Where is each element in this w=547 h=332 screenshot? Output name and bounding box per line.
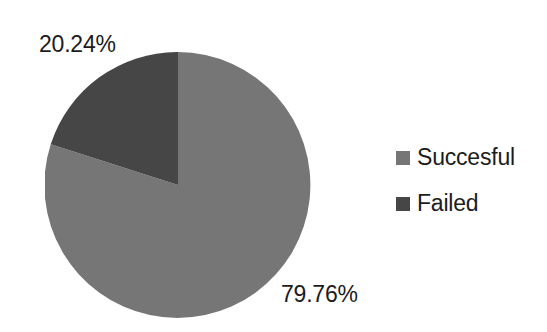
legend-swatch-failed-icon: [396, 197, 410, 211]
chart-legend: Succesful Failed: [396, 146, 515, 215]
legend-swatch-successful-icon: [396, 151, 410, 165]
pie-chart-figure: 20.24% 79.76% Succesful Failed: [0, 0, 547, 332]
pie-svg: [45, 52, 311, 318]
legend-label-failed: Failed: [417, 192, 478, 215]
pie-chart-graphic: [45, 52, 311, 318]
pie-label-successful-percent: 79.76%: [281, 283, 358, 306]
pie-label-failed-percent: 20.24%: [39, 33, 116, 56]
legend-item-successful[interactable]: Succesful: [396, 146, 515, 169]
legend-item-failed[interactable]: Failed: [396, 192, 515, 215]
legend-label-successful: Succesful: [417, 146, 515, 169]
